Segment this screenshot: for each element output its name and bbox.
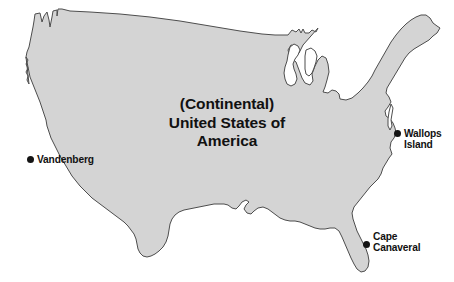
- site-label-cape-canaveral-line-1: Cape: [373, 231, 420, 242]
- site-marker-wallops-island[interactable]: Wallops Island: [394, 128, 442, 151]
- us-launch-sites-map: (Continental) United States of America V…: [0, 0, 454, 282]
- location-dot-icon: [363, 241, 370, 248]
- location-dot-icon: [394, 130, 401, 137]
- site-label-cape-canaveral: Cape Canaveral: [373, 231, 420, 254]
- location-dot-icon: [27, 156, 34, 163]
- site-label-wallops-island: Wallops Island: [404, 128, 442, 151]
- site-marker-vandenberg[interactable]: Vandenberg: [27, 154, 94, 165]
- site-marker-cape-canaveral[interactable]: Cape Canaveral: [363, 231, 420, 254]
- site-label-cape-canaveral-line-2: Canaveral: [373, 242, 420, 253]
- site-label-vandenberg-line-1: Vandenberg: [37, 154, 94, 165]
- site-label-wallops-island-line-1: Wallops: [404, 128, 442, 139]
- site-label-wallops-island-line-2: Island: [404, 139, 442, 150]
- site-label-vandenberg: Vandenberg: [37, 154, 94, 165]
- chesapeake-bay-cutout-path: [388, 104, 393, 130]
